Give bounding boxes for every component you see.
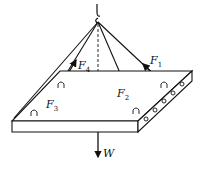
- label-f3: F3: [46, 99, 58, 113]
- label-f2: F2: [117, 88, 129, 102]
- diagram-canvas: [0, 0, 200, 176]
- hook-icon: [96, 4, 100, 23]
- label-f4: F4: [78, 60, 90, 74]
- label-f1: F1: [150, 55, 162, 69]
- label-weight: W: [103, 148, 114, 159]
